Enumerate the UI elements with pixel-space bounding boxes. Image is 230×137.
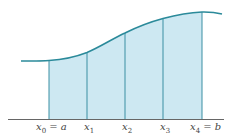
partition-diagram: x0 = ax1x2x3x4 = b [0, 0, 230, 137]
label-x3: x3 [160, 121, 170, 135]
label-x0: x0 = a [36, 121, 67, 135]
label-x2: x2 [122, 121, 132, 135]
label-x4: x4 = b [190, 121, 221, 135]
partition-labels: x0 = ax1x2x3x4 = b [36, 121, 221, 135]
label-x1: x1 [84, 121, 94, 135]
